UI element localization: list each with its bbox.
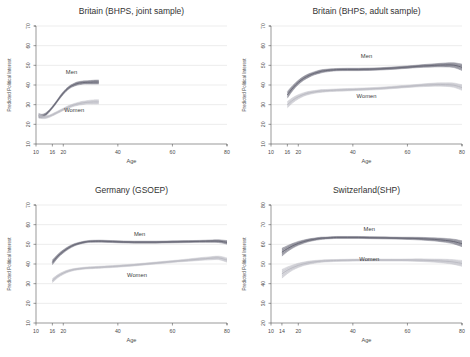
x-tick-label: 10 [33,149,39,155]
chart-panel: Britain (BHPS, joint sample)102030405060… [0,0,235,178]
y-tick-label: 20 [260,121,266,127]
gridlines [271,205,462,303]
x-axis-title: Age [127,337,137,343]
y-tick-label: 40 [260,82,266,88]
series-men [52,240,227,265]
x-tick-label: 40 [115,149,121,155]
x-tick-label: 60 [170,328,176,334]
series-men [282,236,462,256]
y-tick-label: 40 [25,82,31,88]
chart-svg: Switzerland(SHP)203040506070801014204060… [235,179,470,357]
y-tick-label: 70 [260,23,266,29]
x-tick-label: 60 [405,328,411,334]
y-tick-label: 20 [260,320,266,326]
y-tick-label: 30 [260,300,266,306]
replicate-line [52,259,227,282]
figure-container: Britain (BHPS, joint sample)102030405060… [0,0,470,357]
y-tick-label: 50 [260,261,266,267]
x-tick-label: 60 [170,149,176,155]
x-tick-label: 20 [60,149,66,155]
chart-svg: Germany (GSOEP)1020304050607010162040608… [0,179,235,357]
panel-title: Britain (BHPS, joint sample) [79,6,185,16]
y-tick-label: 10 [260,141,266,147]
y-tick-label: 10 [25,320,31,326]
series-women [52,256,227,283]
x-tick-label: 16 [49,328,55,334]
series-annotation: Women [359,256,379,262]
x-tick-label: 60 [405,149,411,155]
series-annotation: Men [361,53,372,59]
y-tick-label: 60 [25,222,31,228]
y-tick-label: 60 [25,43,31,49]
y-tick-label: 30 [25,281,31,287]
y-tick-label: 30 [260,102,266,108]
x-tick-label: 16 [49,149,55,155]
x-tick-label: 80 [459,149,465,155]
y-tick-label: 60 [260,241,266,247]
y-axis-title: Predicted Political Interest [7,237,12,291]
y-tick-label: 50 [260,62,266,68]
x-tick-label: 20 [295,328,301,334]
y-axis-title: Predicted Political Interest [242,58,247,112]
x-tick-label: 10 [268,328,274,334]
y-tick-label: 60 [260,43,266,49]
axes [34,26,227,146]
series-annotation: Men [364,226,375,232]
chart-svg: Britain (BHPS, adult sample)102030405060… [235,0,470,178]
panel-title: Switzerland(SHP) [333,185,400,195]
y-axis-title: Predicted Political Interest [242,237,247,291]
x-tick-label: 16 [284,149,290,155]
gridlines [36,205,227,303]
y-axis-title: Predicted Political Interest [7,58,12,112]
chart-panel: Britain (BHPS, adult sample)102030405060… [235,0,470,178]
y-tick-label: 20 [25,121,31,127]
x-tick-label: 40 [350,328,356,334]
replicate-line [52,242,227,265]
chart-panel: Switzerland(SHP)203040506070801014204060… [235,179,470,357]
gridlines [271,26,462,124]
panel-title: Germany (GSOEP) [95,185,168,195]
x-tick-label: 20 [295,149,301,155]
x-tick-label: 80 [459,328,465,334]
y-tick-label: 40 [25,261,31,267]
panel-title: Britain (BHPS, adult sample) [312,6,420,16]
x-tick-label: 20 [60,328,66,334]
x-tick-label: 10 [33,328,39,334]
y-tick-label: 70 [25,202,31,208]
y-tick-label: 70 [25,23,31,29]
y-tick-label: 50 [25,62,31,68]
series-annotation: Men [134,231,145,237]
y-tick-label: 70 [260,222,266,228]
series-annotation: Women [127,272,147,278]
x-tick-label: 80 [224,149,230,155]
x-axis-title: Age [127,158,137,164]
series-annotation: Women [64,107,84,113]
x-axis-title: Age [362,337,372,343]
x-tick-label: 14 [279,328,285,334]
y-tick-label: 20 [25,300,31,306]
y-tick-label: 30 [25,102,31,108]
series-line [287,65,462,95]
x-tick-label: 80 [224,328,230,334]
series-annotation: Men [66,69,77,75]
y-tick-label: 80 [260,202,266,208]
x-tick-label: 40 [350,149,356,155]
y-tick-label: 40 [260,281,266,287]
x-tick-label: 40 [115,328,121,334]
chart-panel: Germany (GSOEP)1020304050607010162040608… [0,179,235,357]
x-tick-label: 10 [268,149,274,155]
series-annotation: Women [357,93,377,99]
x-axis-title: Age [362,158,372,164]
y-tick-label: 50 [25,241,31,247]
y-tick-label: 10 [25,141,31,147]
chart-svg: Britain (BHPS, joint sample)102030405060… [0,0,235,178]
